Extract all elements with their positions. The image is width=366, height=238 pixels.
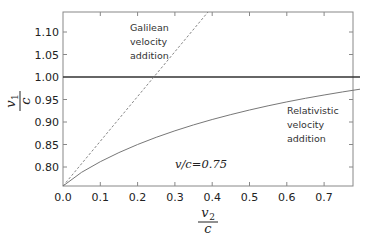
- svg-text:0.6: 0.6: [278, 191, 296, 204]
- svg-text:velocity: velocity: [130, 36, 168, 47]
- svg-text:0.90: 0.90: [35, 116, 60, 129]
- svg-text:1.00: 1.00: [35, 71, 60, 84]
- svg-text:0.3: 0.3: [166, 191, 184, 204]
- svg-text:0.5: 0.5: [241, 191, 259, 204]
- svg-text:0.95: 0.95: [35, 94, 60, 107]
- svg-text:Relativistic: Relativistic: [287, 105, 339, 116]
- svg-text:c: c: [18, 97, 33, 105]
- svg-text:0.85: 0.85: [35, 139, 60, 152]
- svg-text:0.7: 0.7: [315, 191, 333, 204]
- relativistic-annotation: Relativistic velocity addition: [287, 105, 339, 144]
- svg-text:1.05: 1.05: [35, 49, 60, 62]
- svg-text:0.1: 0.1: [92, 191, 110, 204]
- x-tick-labels: 0.0 0.1 0.2 0.3 0.4 0.5 0.6 0.7: [54, 191, 333, 204]
- svg-text:0.0: 0.0: [54, 191, 72, 204]
- svg-text:v: v: [201, 205, 209, 220]
- parameter-label: v/c=0.75: [175, 157, 227, 171]
- svg-text:0.2: 0.2: [129, 191, 147, 204]
- y-axis-ticks: [63, 32, 353, 167]
- x-axis-label: v 2 c: [198, 205, 218, 236]
- y-tick-labels: 0.80 0.85 0.90 0.95 1.00 1.05 1.10: [35, 26, 60, 174]
- galilean-annotation: Galilean velocity addition: [130, 22, 169, 61]
- y-axis-label: v 1 c: [3, 91, 33, 111]
- svg-text:1.10: 1.10: [35, 26, 60, 39]
- svg-text:0.4: 0.4: [203, 191, 221, 204]
- svg-text:velocity: velocity: [287, 119, 325, 130]
- svg-text:Galilean: Galilean: [130, 22, 169, 33]
- svg-text:c: c: [204, 221, 212, 236]
- svg-text:addition: addition: [287, 133, 326, 144]
- svg-text:addition: addition: [130, 50, 169, 61]
- svg-text:v: v: [3, 100, 18, 108]
- velocity-addition-chart: 0.0 0.1 0.2 0.3 0.4 0.5 0.6 0.7 0.80 0.8…: [0, 0, 366, 238]
- svg-text:0.80: 0.80: [35, 161, 60, 174]
